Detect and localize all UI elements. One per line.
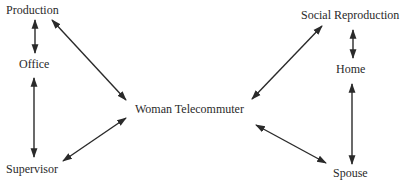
edge-supervisor-telecommuter	[63, 118, 126, 161]
edge-socialrepro-telecommuter	[252, 26, 322, 99]
edge-production-telecommuter	[52, 20, 126, 100]
edge-spouse-telecommuter	[256, 125, 326, 163]
node-production: Production	[6, 3, 59, 17]
node-spouse: Spouse	[333, 166, 368, 180]
diagram-canvas: Production Office Supervisor Woman Telec…	[0, 0, 413, 186]
node-social-reproduction: Social Reproduction	[301, 8, 399, 22]
node-home: Home	[336, 62, 365, 76]
node-woman-telecommuter: Woman Telecommuter	[135, 102, 244, 116]
node-office: Office	[19, 57, 49, 71]
node-supervisor: Supervisor	[6, 162, 58, 176]
diagram-edges	[0, 0, 413, 186]
